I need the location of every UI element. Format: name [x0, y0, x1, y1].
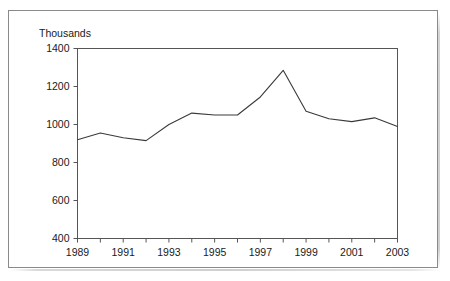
x-axis-tick-label: 1993 — [157, 246, 181, 258]
plot-area-border — [78, 49, 398, 239]
chart-figure: Thousands 400600800100012001400198919911… — [0, 0, 450, 281]
x-axis-tick-label: 2001 — [340, 246, 364, 258]
x-axis-tick-label: 1997 — [249, 246, 273, 258]
y-axis-tick-label: 800 — [52, 156, 70, 168]
y-axis-tick-label: 400 — [52, 232, 70, 244]
y-axis-tick-label: 1400 — [46, 42, 70, 54]
x-axis-tick-label: 1991 — [112, 246, 136, 258]
y-axis-tick-label: 1000 — [46, 118, 70, 130]
x-axis-tick-label: 1999 — [294, 246, 318, 258]
x-axis-tick-label: 1989 — [66, 246, 90, 258]
line-chart-plot: 4006008001000120014001989199119931995199… — [0, 0, 450, 281]
x-axis-tick-label: 1995 — [203, 246, 227, 258]
y-axis-tick-label: 1200 — [46, 80, 70, 92]
y-axis-tick-label: 600 — [52, 194, 70, 206]
x-axis-tick-label: 2003 — [386, 246, 410, 258]
data-series-line — [78, 70, 398, 140]
